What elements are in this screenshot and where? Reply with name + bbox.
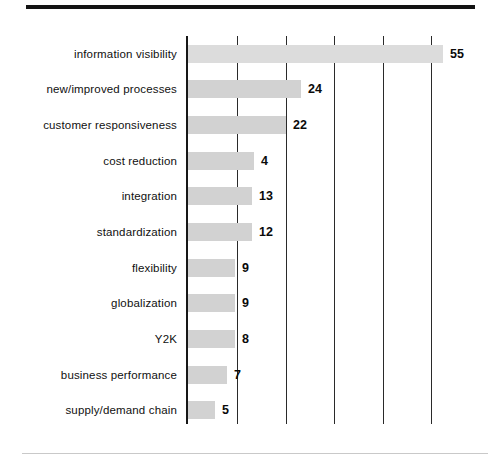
category-label: flexibility — [132, 262, 186, 274]
category-label: cost reduction — [103, 155, 186, 167]
bar-value-label: 9 — [242, 296, 249, 310]
bar-value-label: 5 — [222, 403, 229, 417]
category-label: standardization — [97, 226, 186, 238]
category-label: Y2K — [155, 333, 186, 345]
bottom-divider-rule — [22, 453, 488, 454]
category-label: supply/demand chain — [65, 404, 186, 416]
bar-value-label: 12 — [259, 225, 273, 239]
bar-row: customer responsiveness22 — [0, 107, 498, 143]
bar-row: cost reduction4 — [0, 143, 498, 179]
bar-value-label: 22 — [293, 118, 307, 132]
bar — [188, 366, 227, 384]
bar-value-label: 9 — [242, 261, 249, 275]
bar — [188, 294, 235, 312]
bar-row: information visibility55 — [0, 36, 498, 72]
bar-value-label: 4 — [261, 154, 268, 168]
bar-row: business performance7 — [0, 357, 498, 393]
bar — [188, 152, 254, 170]
bar — [188, 401, 215, 419]
bar-rows: information visibility55new/improved pro… — [0, 36, 498, 428]
bar-value-label: 8 — [242, 332, 249, 346]
bar-value-label: 7 — [234, 368, 241, 382]
chart-figure: information visibility55new/improved pro… — [0, 0, 498, 458]
bar — [188, 116, 286, 134]
top-divider-rule — [26, 5, 475, 9]
bar-value-label: 13 — [259, 189, 273, 203]
bar-row: integration13 — [0, 179, 498, 215]
bar — [188, 45, 443, 63]
plot-area: information visibility55new/improved pro… — [0, 36, 498, 428]
category-label: globalization — [111, 297, 186, 309]
category-label: customer responsiveness — [43, 119, 186, 131]
category-label: business performance — [61, 369, 186, 381]
bar — [188, 80, 301, 98]
bar — [188, 259, 235, 277]
bar-row: new/improved processes24 — [0, 72, 498, 108]
bar-row: standardization12 — [0, 214, 498, 250]
bar-value-label: 24 — [308, 82, 322, 96]
bar — [188, 187, 252, 205]
category-label: information visibility — [74, 48, 186, 60]
bar-row: supply/demand chain5 — [0, 392, 498, 428]
bar — [188, 330, 235, 348]
category-label: new/improved processes — [47, 83, 187, 95]
bar-row: flexibility9 — [0, 250, 498, 286]
bar-row: globalization9 — [0, 285, 498, 321]
category-label: integration — [122, 190, 186, 202]
bar-row: Y2K8 — [0, 321, 498, 357]
bar — [188, 223, 252, 241]
bar-value-label: 55 — [450, 47, 464, 61]
